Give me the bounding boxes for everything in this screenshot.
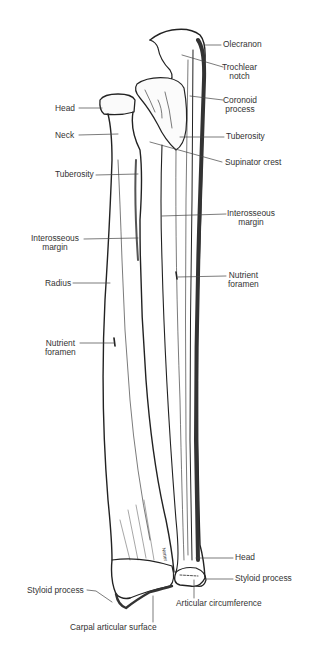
label-styloid-process-radius: Styloid process: [27, 586, 84, 595]
signature: Netter: [161, 547, 169, 562]
label-interosseous-margin-radius-line2: margin: [31, 243, 79, 252]
label-radius: Radius: [45, 279, 71, 288]
label-olecranon: Olecranon: [223, 40, 262, 49]
label-interosseous-margin-ulna: Interosseous margin: [227, 209, 275, 227]
label-trochlear-notch: Trochlear notch: [222, 63, 257, 81]
label-carpal-articular-surface: Carpal articular surface: [70, 623, 157, 632]
ulna-drawing: [136, 29, 206, 586]
label-nutrient-foramen-radius: Nutrient foramen: [45, 339, 76, 357]
label-coronoid-process-line2: process: [223, 105, 257, 114]
label-interosseous-margin-ulna-line2: margin: [227, 218, 275, 227]
label-neck: Neck: [55, 131, 74, 140]
label-trochlear-notch-line2: notch: [222, 72, 257, 81]
label-coronoid-process: Coronoid process: [223, 96, 257, 114]
label-styloid-process-ulna: Styloid process: [235, 574, 292, 583]
anatomy-figure: Netter Olecranon Trochlear notch Coronoi…: [0, 0, 311, 649]
label-tuberosity-ulna: Tuberosity: [226, 132, 265, 141]
label-nutrient-foramen-ulna: Nutrient foramen: [228, 271, 259, 289]
label-tuberosity-radius: Tuberosity: [55, 170, 94, 179]
label-nutrient-foramen-ulna-line2: foramen: [228, 280, 259, 289]
label-articular-circumference: Articular circumference: [176, 599, 262, 608]
bone-illustration: Netter: [0, 0, 311, 649]
label-interosseous-margin-radius: Interosseous margin: [31, 234, 79, 252]
label-head-ulna: Head: [235, 553, 255, 562]
label-supinator-crest: Supinator crest: [225, 158, 281, 167]
leader-lines: [73, 45, 233, 622]
label-nutrient-foramen-radius-line2: foramen: [45, 348, 76, 357]
label-head-radius: Head: [55, 104, 75, 113]
